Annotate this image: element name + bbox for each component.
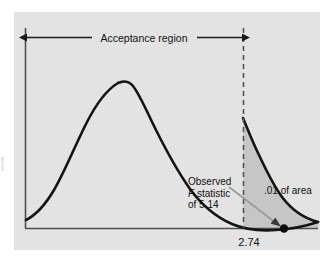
critical-value-tick-label: 2.74 bbox=[238, 236, 259, 248]
observed-label-line2: F statistic bbox=[188, 188, 230, 199]
observed-label-line3: of 5.14 bbox=[188, 199, 219, 210]
page-edge-fragment bbox=[1, 157, 4, 171]
statistic-word: statistic bbox=[194, 188, 230, 199]
figure-container: Acceptance region Observed F statistic o… bbox=[0, 0, 334, 257]
observed-label-line1: Observed bbox=[188, 176, 231, 187]
f-distribution-chart: Acceptance region Observed F statistic o… bbox=[0, 0, 334, 257]
acceptance-region-label: Acceptance region bbox=[101, 32, 188, 44]
observed-statistic-dot bbox=[280, 224, 288, 232]
tail-area-label: .01 of area bbox=[264, 185, 312, 196]
